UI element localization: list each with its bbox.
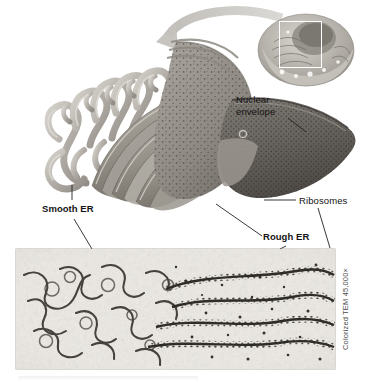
micrograph-vignette (16, 249, 335, 369)
cut-off-caption (18, 376, 198, 381)
micrograph-credit-text: Colorized TEM 45,000× (341, 268, 350, 350)
er-figure: Nuclear envelope Ribosomes Smooth ER Rou… (0, 0, 369, 383)
label-nuclear-envelope: Nuclear envelope (236, 94, 275, 117)
tem-micrograph (16, 249, 335, 369)
label-ribosomes: Ribosomes (299, 195, 347, 207)
label-rough-er: Rough ER (263, 231, 309, 243)
label-smooth-er: Smooth ER (42, 203, 94, 215)
micrograph-credit: Colorized TEM 45,000× (338, 249, 352, 369)
